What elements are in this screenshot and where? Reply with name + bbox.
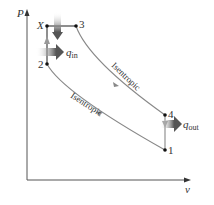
y-axis-label: P [17,8,24,19]
direction-arrow-icon [44,36,50,44]
point-3 [74,24,78,28]
heat-in-label: qin [66,47,78,60]
heat-in-arrow-icon [56,44,64,60]
heat-arrow-down-icon [52,32,63,40]
point-2 [45,62,49,66]
path-1-2 [47,64,165,150]
y-axis-arrow-icon [25,9,30,16]
heat-out-label: qout [183,119,199,132]
x-axis-label: v [185,184,190,195]
state-points [45,24,167,152]
point-1 [163,148,167,152]
point-1-label: 1 [168,145,174,156]
isentropic-label-1-2: Isentropic [69,90,105,118]
point-x [45,24,49,28]
direction-arrow-icon [113,82,119,87]
x-axis-arrow-icon [184,178,191,183]
heat-out-arrow-icon [174,116,182,132]
point-4 [163,113,167,117]
pv-diagram: Isentropic Isentropic [0,0,214,205]
point-2-label: 2 [38,59,44,70]
point-x-label: X [37,20,44,31]
axes [25,9,192,183]
cycle-paths [47,26,165,150]
point-3-label: 3 [79,19,85,30]
isentropic-label-3-4: Isentropic [110,60,143,92]
point-4-label: 4 [168,109,174,120]
